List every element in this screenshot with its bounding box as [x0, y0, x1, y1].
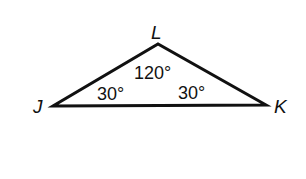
vertex-label-k: K	[274, 96, 288, 117]
angle-label-j: 30°	[97, 84, 124, 104]
angle-label-l: 120°	[134, 63, 171, 83]
vertex-label-l: L	[151, 22, 162, 43]
triangle-diagram: L J K 120° 30° 30°	[0, 0, 306, 179]
angle-label-k: 30°	[178, 83, 205, 103]
vertex-label-j: J	[32, 96, 43, 117]
diagram-canvas: L J K 120° 30° 30°	[0, 0, 306, 179]
